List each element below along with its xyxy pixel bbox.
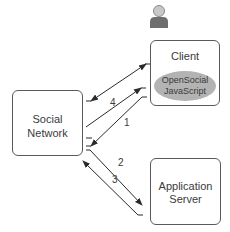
opensocial-javascript-component: OpenSocial JavaScript [154, 71, 216, 101]
arrow-step-3 [83, 161, 143, 215]
edge-label-4: 4 [110, 98, 116, 108]
arrow-step-4 [86, 88, 146, 127]
edge-label-3: 3 [112, 175, 118, 185]
component-line-1: OpenSocial [154, 75, 216, 86]
social-network-label-line-2: Network [13, 127, 82, 140]
person-icon [150, 6, 168, 29]
application-server-box: Application Server [150, 158, 221, 225]
client-box: Client OpenSocial JavaScript [150, 40, 220, 106]
arrow-bidirectional [86, 64, 150, 101]
opensocial-architecture-diagram: Client OpenSocial JavaScript Social Netw… [0, 0, 230, 232]
edge-label-2: 2 [118, 158, 124, 168]
social-network-label-line-1: Social [13, 113, 82, 126]
social-network-box: Social Network [12, 90, 83, 156]
application-server-label-line-2: Server [151, 193, 220, 206]
client-label: Client [151, 50, 219, 63]
application-server-label-line-1: Application [151, 180, 220, 193]
component-line-2: JavaScript [154, 86, 216, 97]
arrow-step-1 [86, 97, 147, 146]
edge-label-1: 1 [124, 118, 130, 128]
